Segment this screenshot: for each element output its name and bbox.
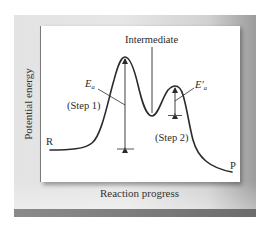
products-label: P	[230, 160, 236, 171]
y-axis-label: Potential energy	[22, 68, 34, 140]
x-axis-label: Reaction progress	[40, 187, 239, 199]
ea-subscript: a	[91, 83, 94, 90]
step1-label: (Step 1)	[67, 100, 101, 111]
ea-prime-subscript: a	[204, 84, 207, 91]
ea-prime-symbol: E′	[195, 79, 204, 90]
step2-label: (Step 2)	[155, 132, 189, 143]
reaction-energy-curve	[50, 57, 232, 172]
reactants-label: R	[46, 136, 53, 147]
intermediate-label: Intermediate	[125, 34, 178, 45]
ea-label: Ea	[85, 78, 95, 90]
ea-prime-label: E′a	[195, 79, 207, 91]
